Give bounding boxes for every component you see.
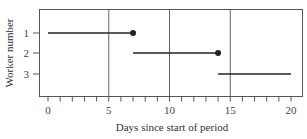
y-tick-label: 3 bbox=[24, 68, 30, 80]
x-tick-label: 0 bbox=[45, 104, 51, 116]
y-axis-title: Worker number bbox=[3, 18, 15, 87]
x-tick-label: 20 bbox=[286, 104, 298, 116]
y-axis: 123 bbox=[24, 27, 40, 80]
x-tick-label: 15 bbox=[225, 104, 237, 116]
y-tick-label: 1 bbox=[24, 27, 30, 39]
x-tick-label: 5 bbox=[106, 104, 112, 116]
x-tick-label: 10 bbox=[164, 104, 176, 116]
x-axis: 05101520 bbox=[45, 97, 297, 116]
chart: 123 05101520 Days since start of period … bbox=[0, 0, 307, 139]
end-dot-marker bbox=[215, 50, 221, 56]
x-axis-title: Days since start of period bbox=[116, 121, 229, 133]
end-dot-marker bbox=[130, 30, 136, 36]
y-tick-label: 2 bbox=[24, 47, 30, 59]
